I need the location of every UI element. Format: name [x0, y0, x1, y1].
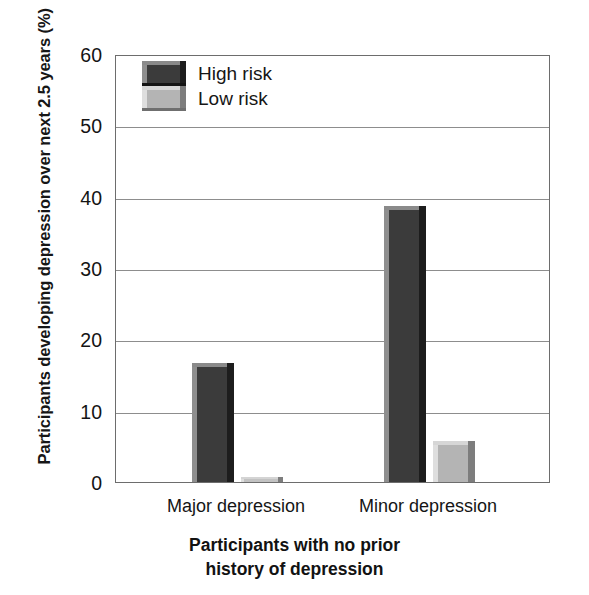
legend-label-low-risk: Low risk — [198, 88, 268, 110]
legend-entry-low-risk: Low risk — [142, 86, 272, 111]
y-tick-label-50: 50 — [46, 115, 102, 138]
bar-shadow-right — [419, 206, 426, 482]
swatch-shadow-bottom — [142, 108, 186, 111]
gridline-10 — [116, 413, 549, 414]
legend-swatch-low-risk — [142, 86, 186, 111]
plot-area: High risk Low risk — [115, 55, 550, 483]
bar-highlight-left — [384, 206, 389, 482]
x-axis-title-line-2: history of depression — [0, 558, 589, 582]
y-tick-label-60: 60 — [46, 44, 102, 67]
legend-swatch-high-risk — [142, 61, 186, 86]
y-tick-label-0: 0 — [46, 472, 102, 495]
bar-highlight-left — [192, 363, 197, 482]
gridline-40 — [116, 199, 549, 200]
bar-shadow-right — [468, 441, 475, 482]
bar-minor-high-risk — [384, 206, 426, 482]
y-tick-label-10: 10 — [46, 400, 102, 423]
bar-shadow-right — [278, 477, 283, 482]
gridline-30 — [116, 270, 549, 271]
bar-shadow-right — [227, 363, 234, 482]
x-axis-title: Participants with no prior history of de… — [0, 534, 589, 581]
y-tick-label-30: 30 — [46, 258, 102, 281]
bar-chart: Participants developing depression over … — [0, 0, 589, 595]
bar-major-high-risk — [192, 363, 234, 482]
legend-label-high-risk: High risk — [198, 63, 272, 85]
bar-minor-low-risk — [433, 441, 475, 482]
x-tick-label-minor: Minor depression — [359, 496, 497, 517]
bar-major-low-risk — [241, 477, 283, 482]
x-axis-title-line-1: Participants with no prior — [0, 534, 589, 558]
y-tick-label-20: 20 — [46, 329, 102, 352]
y-tick-label-40: 40 — [46, 186, 102, 209]
x-tick-label-major: Major depression — [167, 496, 305, 517]
bar-highlight-left — [433, 441, 438, 482]
legend-entry-high-risk: High risk — [142, 61, 272, 86]
chart-legend: High risk Low risk — [142, 61, 272, 111]
bar-highlight-top — [241, 477, 283, 479]
gridline-20 — [116, 341, 549, 342]
gridline-50 — [116, 127, 549, 128]
